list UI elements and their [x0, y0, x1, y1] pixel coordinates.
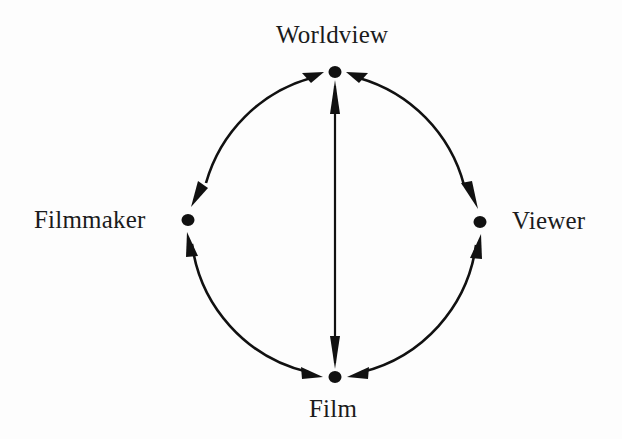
edge-viewer-film-line — [362, 245, 476, 372]
node-label-filmmaker: Filmmaker — [34, 207, 146, 232]
arrowhead-to-film-center — [330, 336, 340, 369]
node-film[interactable] — [329, 371, 342, 383]
node-label-film: Film — [309, 396, 357, 421]
arrowhead-to-film-right — [347, 367, 369, 379]
edge-worldview-viewer — [346, 72, 478, 209]
edge-viewer-film — [347, 234, 482, 379]
cycle-diagram: Worldview Filmmaker Viewer Film — [0, 0, 622, 439]
edge-worldview-filmmaker — [191, 72, 324, 207]
edge-worldview-film — [330, 80, 340, 369]
arrowhead-to-worldview-center — [330, 80, 340, 114]
node-label-viewer: Viewer — [512, 208, 585, 233]
node-label-worldview: Worldview — [276, 22, 388, 47]
node-filmmaker[interactable] — [182, 214, 195, 226]
node-worldview[interactable] — [329, 66, 342, 78]
edge-filmmaker-film-line — [192, 244, 308, 372]
arrowhead-to-filmmaker-top — [191, 181, 208, 207]
arrowhead-to-filmmaker-bottom — [186, 232, 198, 257]
arrowhead-to-viewer-bottom — [470, 234, 482, 259]
arrowhead-to-worldview-right — [346, 72, 368, 83]
arrowhead-to-film-left — [301, 367, 323, 379]
edge-worldview-filmmaker-line — [206, 78, 311, 183]
arrowhead-to-worldview-left — [302, 72, 324, 83]
arrowhead-to-viewer-top — [461, 181, 478, 209]
edge-worldview-viewer-line — [359, 78, 464, 185]
edge-filmmaker-film — [186, 232, 323, 379]
node-viewer[interactable] — [474, 216, 487, 228]
